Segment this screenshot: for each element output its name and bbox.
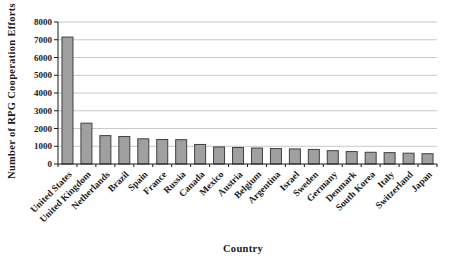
axes <box>54 22 437 167</box>
y-tick-label: 1000 <box>34 141 53 151</box>
bar <box>346 152 357 164</box>
bar <box>100 136 111 164</box>
bar <box>81 123 92 164</box>
bar <box>138 139 149 164</box>
gridlines <box>58 22 437 146</box>
y-tick-label: 7000 <box>34 35 53 45</box>
bar <box>233 147 244 164</box>
y-tick-labels: 010002000300040005000600070008000 <box>34 17 53 169</box>
bar-chart-canvas: 010002000300040005000600070008000 United… <box>0 0 454 269</box>
bar <box>270 149 281 164</box>
bar <box>214 147 225 164</box>
bar <box>289 149 300 164</box>
y-tick-label: 4000 <box>34 88 53 98</box>
bar <box>403 153 414 164</box>
x-axis-title: Country <box>223 243 263 254</box>
bar <box>157 140 168 165</box>
rpg-cooperation-bar-chart-figure: 010002000300040005000600070008000 United… <box>0 0 454 269</box>
y-tick-label: 6000 <box>34 53 53 63</box>
bar <box>308 149 319 164</box>
bar <box>384 153 395 164</box>
y-tick-label: 5000 <box>34 70 53 80</box>
x-category-label: Japan <box>409 169 434 194</box>
bar <box>62 37 73 164</box>
y-tick-label: 8000 <box>34 17 53 27</box>
bars <box>62 37 433 164</box>
bar <box>119 136 130 164</box>
bar <box>176 140 187 164</box>
bar <box>195 144 206 164</box>
y-tick-label: 2000 <box>34 124 53 134</box>
y-axis-title: Number of RPG Cooperation Efforts <box>6 3 17 179</box>
x-category-label: Brazil <box>106 169 131 194</box>
bar <box>251 148 262 164</box>
bar <box>365 152 376 164</box>
y-tick-label: 0 <box>48 159 53 169</box>
bar <box>327 151 338 164</box>
x-category-labels: United StatesUnited KingdomNetherlandsBr… <box>29 169 435 225</box>
y-tick-label: 3000 <box>34 106 53 116</box>
bar <box>422 154 433 164</box>
